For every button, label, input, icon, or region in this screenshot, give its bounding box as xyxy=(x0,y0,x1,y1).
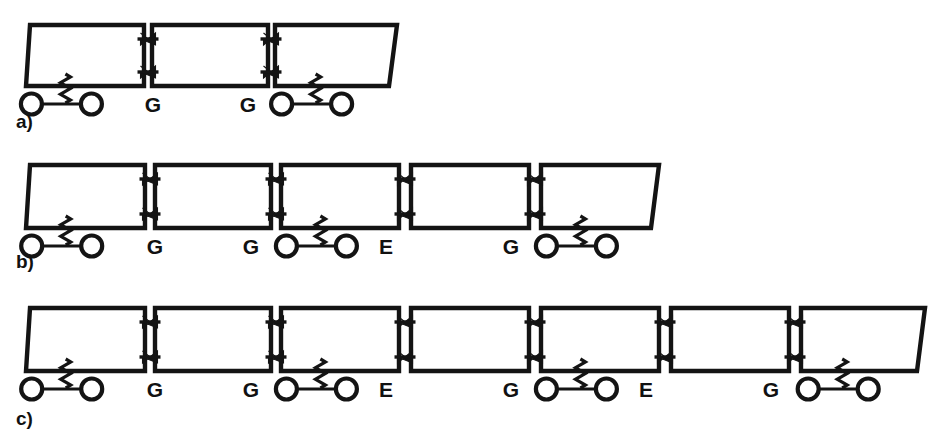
car-body xyxy=(801,308,925,371)
coupler-type-label: G xyxy=(145,93,161,116)
car-body xyxy=(411,308,529,371)
wheel xyxy=(798,379,819,400)
wheel xyxy=(276,236,297,257)
coupler-type-label: G xyxy=(147,378,163,401)
diagram-canvas: GGa)GGEGb)GGEGEGc) xyxy=(0,0,941,447)
wheel xyxy=(276,379,297,400)
car-body xyxy=(281,308,399,371)
wheel xyxy=(81,379,102,400)
coupler-type-label: G xyxy=(240,93,256,116)
car-body xyxy=(152,25,268,86)
coupler-type-label: E xyxy=(639,378,653,401)
wheel xyxy=(596,236,617,257)
car-body xyxy=(411,165,529,228)
wheel xyxy=(81,236,102,257)
coupler-type-label: G xyxy=(243,235,259,258)
car-body xyxy=(541,165,659,228)
coupler-type-label: E xyxy=(379,235,393,258)
consist-row-a: GGa) xyxy=(16,25,397,132)
car-body xyxy=(26,25,144,86)
coupler-type-label: G xyxy=(503,378,519,401)
wheel xyxy=(81,94,102,115)
car-body xyxy=(275,25,397,86)
wheel xyxy=(536,236,557,257)
row-label-b: b) xyxy=(16,251,34,272)
consist-row-b: GGEGb) xyxy=(16,165,659,272)
coupler-type-label: G xyxy=(503,235,519,258)
wheel xyxy=(21,379,42,400)
coupler-type-label: E xyxy=(379,378,393,401)
wheel xyxy=(858,379,879,400)
wheel xyxy=(336,236,357,257)
wheel xyxy=(331,94,352,115)
wheel xyxy=(336,379,357,400)
wheel xyxy=(536,379,557,400)
car-body xyxy=(155,165,271,228)
coupler-type-label: G xyxy=(763,378,779,401)
wheel xyxy=(271,94,292,115)
consist-row-c: GGEGEGc) xyxy=(16,308,925,429)
coupler-type-label: G xyxy=(243,378,259,401)
car-body xyxy=(26,165,145,228)
car-body xyxy=(671,308,789,371)
car-body xyxy=(541,308,659,371)
diagram-layers: GGa)GGEGb)GGEGEGc) xyxy=(16,25,925,429)
row-label-a: a) xyxy=(16,111,33,132)
row-label-c: c) xyxy=(16,408,33,429)
wheel xyxy=(596,379,617,400)
car-body xyxy=(281,165,399,228)
car-body xyxy=(155,308,271,371)
coupler-type-label: G xyxy=(147,235,163,258)
train-consist-diagram: GGa)GGEGb)GGEGEGc) xyxy=(0,0,941,447)
car-body xyxy=(26,308,145,371)
